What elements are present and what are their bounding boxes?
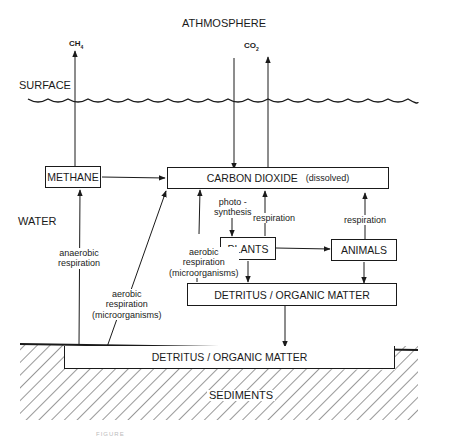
label-line: anaerobic [58, 248, 100, 258]
arrow-aerobic-sediment-to-co2 [131, 191, 166, 290]
node-detritus-sediment-label: DETRITUS / ORGANIC MATTER [152, 351, 308, 363]
node-carbon-dioxide: CARBON DIOXIDE (dissolved) [167, 167, 389, 189]
figure-caption: FIGURE [96, 431, 125, 437]
node-methane: METHANE [45, 166, 101, 188]
co2-subscript: 2 [256, 46, 259, 52]
label-sediments: SEDIMENTS [207, 390, 275, 401]
node-carbon-dioxide-note: (dissolved) [306, 173, 350, 183]
node-methane-label: METHANE [47, 171, 98, 183]
label-ch4: CH4 [69, 40, 83, 50]
water-surface-line [28, 99, 418, 103]
node-detritus-sediment: DETRITUS / ORGANIC MATTER [64, 346, 395, 369]
label-line: aerobic [92, 289, 162, 299]
diagram-canvas [0, 0, 457, 438]
label-aerobic-detritus: aerobic respiration (microorganisms) [169, 247, 239, 278]
label-line: aerobic [169, 247, 239, 257]
arrow-plants-to-animals [276, 248, 330, 249]
label-plant-respiration: respiration [253, 213, 295, 223]
node-detritus-water: DETRITUS / ORGANIC MATTER [187, 283, 397, 306]
node-detritus-water-label: DETRITUS / ORGANIC MATTER [214, 289, 370, 301]
label-line: respiration [58, 258, 100, 268]
co2-text: CO [244, 41, 256, 50]
arrow-methane-to-co2 [102, 177, 165, 178]
label-photosynthesis: photo - synthesis [214, 197, 252, 218]
label-line: (microorganisms) [92, 310, 162, 320]
label-water: WATER [18, 216, 57, 227]
label-line: respiration [169, 257, 239, 267]
label-aerobic-sediment: aerobic respiration (microorganisms) [92, 289, 162, 320]
label-co2: CO2 [244, 42, 259, 52]
leader-aerobic-sediment [107, 316, 118, 347]
ch4-text: CH [69, 39, 81, 48]
label-line: (microorganisms) [169, 268, 239, 278]
node-carbon-dioxide-label: CARBON DIOXIDE [207, 172, 298, 184]
label-line: respiration [92, 299, 162, 309]
label-line: photo - [214, 197, 252, 207]
node-animals: ANIMALS [331, 239, 397, 261]
label-atmosphere: ATHMOSPHERE [182, 18, 266, 29]
ch4-subscript: 4 [81, 44, 84, 50]
label-animal-respiration: respiration [344, 215, 386, 225]
label-line: synthesis [214, 207, 252, 217]
label-surface: SURFACE [19, 80, 71, 91]
label-anaerobic-respiration: anaerobic respiration [58, 248, 100, 269]
node-animals-label: ANIMALS [341, 244, 387, 256]
arrow-aerobic-detritus-to-co2 [199, 190, 200, 234]
